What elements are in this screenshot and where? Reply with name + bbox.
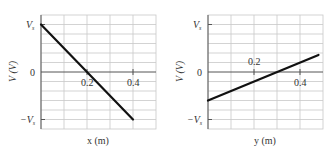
xtick-0.4: 0.4 <box>127 77 140 88</box>
ytick-vs: Vs <box>26 19 35 31</box>
axes <box>208 15 323 129</box>
chart-right-v-vs-y: 0.2 0.4 Vs 0 −Vs y (m) V (V) <box>167 0 334 152</box>
xtick-0.2: 0.2 <box>248 56 261 67</box>
ytick-neg-vs: −Vs <box>187 114 203 126</box>
x-axis-title: x (m) <box>87 135 109 147</box>
ytick-neg-vs: −Vs <box>20 114 36 126</box>
ytick-zero: 0 <box>30 67 35 78</box>
axes <box>41 15 156 129</box>
chart-left-v-vs-x: 0.2 0.4 Vs 0 −Vs x (m) V (V) <box>0 0 167 152</box>
x-axis-title: y (m) <box>254 135 276 147</box>
y-axis-title: V (V) <box>174 60 186 82</box>
xtick-0.4: 0.4 <box>294 77 307 88</box>
xtick-0.2: 0.2 <box>81 77 94 88</box>
ytick-vs: Vs <box>193 19 202 31</box>
ytick-zero: 0 <box>197 67 202 78</box>
chart-left-svg: 0.2 0.4 Vs 0 −Vs x (m) V (V) <box>0 0 167 152</box>
y-axis-title: V (V) <box>7 60 19 82</box>
chart-right-svg: 0.2 0.4 Vs 0 −Vs y (m) V (V) <box>167 0 334 152</box>
